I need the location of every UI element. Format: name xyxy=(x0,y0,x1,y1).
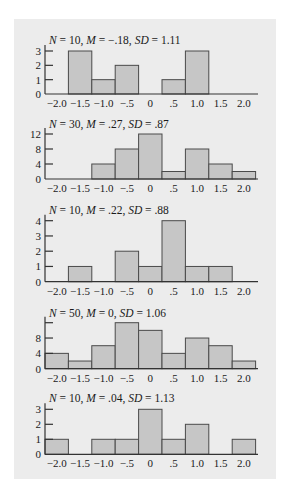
x-tick-label: 1.5 xyxy=(214,97,228,109)
x-tick-label: −1.5 xyxy=(70,182,90,194)
histogram-bar xyxy=(68,361,91,369)
x-tick-label: −2.0 xyxy=(47,97,67,109)
x-tick-label: −1.0 xyxy=(94,372,114,384)
x-tick-label: 1.5 xyxy=(214,285,228,297)
histogram-bar xyxy=(115,251,138,282)
x-tick-label: −1.0 xyxy=(94,97,114,109)
x-tick-label: 1.0 xyxy=(190,285,204,297)
x-tick-label: −1.5 xyxy=(70,457,90,469)
y-tick-label: 0 xyxy=(36,363,42,375)
y-tick-label: 3 xyxy=(36,403,42,415)
histogram-bar xyxy=(115,65,138,94)
x-tick-label: 0 xyxy=(148,97,154,109)
histogram-bar xyxy=(139,266,162,281)
x-tick-label: .5 xyxy=(170,97,179,109)
histogram-title: N = 10, M = .22, SD = .88 xyxy=(48,204,169,217)
x-tick-label: −2.0 xyxy=(47,182,67,194)
x-tick-label: 1.5 xyxy=(214,182,228,194)
y-tick-label: 2 xyxy=(36,418,42,430)
histogram-bar xyxy=(232,439,255,454)
x-tick-label: −2.0 xyxy=(47,457,67,469)
y-tick-label: 4 xyxy=(36,215,42,227)
x-tick-label: 2.0 xyxy=(237,457,251,469)
x-tick-label: .5 xyxy=(170,372,179,384)
histogram-bar xyxy=(139,409,162,454)
x-tick-label: .5 xyxy=(170,457,179,469)
histogram-bar xyxy=(185,338,208,369)
x-tick-label: 0 xyxy=(148,182,154,194)
x-tick-label: 2.0 xyxy=(237,182,251,194)
histogram-bar xyxy=(139,330,162,368)
histogram-bar xyxy=(92,80,115,94)
x-tick-label: .5 xyxy=(170,182,179,194)
histogram-bar xyxy=(115,323,138,369)
histogram-bar xyxy=(232,172,255,180)
x-tick-label: −1.0 xyxy=(94,285,114,297)
x-tick-label: −.5 xyxy=(120,372,135,384)
y-tick-label: 1 xyxy=(36,74,42,86)
histogram-bar xyxy=(92,439,115,454)
x-tick-label: .5 xyxy=(170,285,179,297)
histogram-bar xyxy=(139,134,162,179)
x-tick-label: −1.5 xyxy=(70,97,90,109)
y-tick-label: 2 xyxy=(36,245,42,257)
x-tick-label: 2.0 xyxy=(237,97,251,109)
x-tick-label: 1.5 xyxy=(214,457,228,469)
histogram-bar xyxy=(68,51,91,94)
y-tick-label: 8 xyxy=(36,332,42,344)
histogram-title: N = 10, M = .04, SD = 1.13 xyxy=(48,392,175,405)
x-tick-label: 0 xyxy=(148,285,154,297)
histogram-bar xyxy=(92,346,115,369)
histogram-bar xyxy=(115,439,138,454)
histogram-bar xyxy=(209,346,232,369)
histogram-title: N = 30, M = .27, SD = .87 xyxy=(48,118,169,131)
x-tick-label: −2.0 xyxy=(47,372,67,384)
y-tick-label: 4 xyxy=(36,158,42,170)
y-tick-label: 1 xyxy=(36,433,42,445)
x-tick-label: −.5 xyxy=(120,182,135,194)
y-tick-label: 12 xyxy=(30,128,41,140)
x-tick-label: −1.5 xyxy=(70,372,90,384)
y-tick-label: 2 xyxy=(36,59,42,71)
histogram-bar xyxy=(162,221,185,282)
x-tick-label: 0 xyxy=(148,372,154,384)
x-tick-label: 1.0 xyxy=(190,372,204,384)
y-tick-label: 8 xyxy=(36,143,42,155)
histogram-bar xyxy=(185,266,208,281)
y-tick-label: 3 xyxy=(36,230,42,242)
x-tick-label: −.5 xyxy=(120,97,135,109)
histogram-bar xyxy=(185,424,208,454)
histogram-bar xyxy=(162,439,185,454)
y-tick-label: 0 xyxy=(36,173,42,185)
histogram-bar xyxy=(162,353,185,368)
histogram-bar xyxy=(115,149,138,179)
y-tick-label: 0 xyxy=(36,276,42,288)
x-tick-label: −1.0 xyxy=(94,457,114,469)
x-tick-label: 1.0 xyxy=(190,457,204,469)
histogram-bar xyxy=(185,51,208,94)
y-tick-label: 1 xyxy=(36,260,42,272)
x-tick-label: 2.0 xyxy=(237,372,251,384)
x-tick-label: 1.0 xyxy=(190,182,204,194)
histogram-bar xyxy=(232,361,255,369)
x-tick-label: −.5 xyxy=(120,457,135,469)
x-tick-label: 1.5 xyxy=(214,372,228,384)
histogram-bar xyxy=(209,164,232,179)
x-tick-label: −2.0 xyxy=(47,285,67,297)
y-tick-label: 0 xyxy=(36,88,42,100)
x-tick-label: −1.0 xyxy=(94,182,114,194)
histogram-figure: 0123−2.0−1.5−1.0−.50.51.01.52.0N = 10, M… xyxy=(0,0,290,498)
x-tick-label: 0 xyxy=(148,457,154,469)
histogram-title: N = 50, M = 0, SD = 1.06 xyxy=(48,307,166,320)
histogram-bar xyxy=(162,172,185,180)
histogram-bar xyxy=(185,149,208,179)
y-tick-label: 3 xyxy=(36,45,42,57)
x-tick-label: −.5 xyxy=(120,285,135,297)
y-tick-label: 4 xyxy=(36,347,42,359)
histogram-bar xyxy=(92,164,115,179)
x-tick-label: −1.5 xyxy=(70,285,90,297)
histogram-title: N = 10, M = −.18, SD = 1.11 xyxy=(48,34,181,47)
histogram-bar xyxy=(162,80,185,94)
histogram-bar xyxy=(45,353,68,368)
x-tick-label: 2.0 xyxy=(237,285,251,297)
